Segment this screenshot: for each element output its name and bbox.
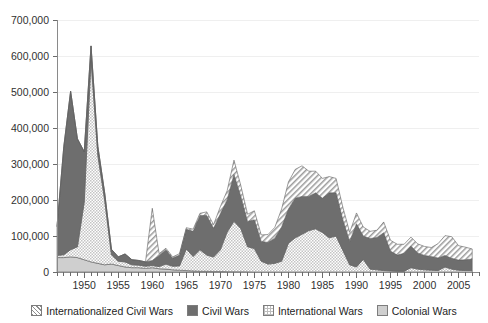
- x-tick-label: 1975: [243, 279, 267, 291]
- stacked-area-chart: 0100,000200,000300,000400,000500,000600,…: [0, 0, 488, 296]
- legend-swatch-icon: [31, 305, 42, 316]
- y-tick-label: 500,000: [11, 86, 49, 98]
- x-tick-label: 1990: [345, 279, 369, 291]
- legend-item[interactable]: Internationalized Civil Wars: [31, 305, 173, 317]
- legend-item[interactable]: Civil Wars: [187, 305, 249, 317]
- y-tick-label: 0: [43, 266, 49, 278]
- x-tick-label: 1965: [175, 279, 199, 291]
- x-tick-label: 2005: [447, 279, 471, 291]
- legend-swatch-icon: [377, 305, 388, 316]
- chart-legend: Internationalized Civil WarsCivil WarsIn…: [0, 298, 488, 323]
- legend-label: Colonial Wars: [392, 305, 457, 317]
- legend-item[interactable]: International Wars: [263, 305, 363, 317]
- area-series-group: [57, 46, 472, 272]
- x-tick-label: 1985: [311, 279, 335, 291]
- y-tick-label: 600,000: [11, 50, 49, 62]
- y-tick-label: 400,000: [11, 122, 49, 134]
- gridlines: [57, 20, 479, 236]
- y-tick-label: 200,000: [11, 194, 49, 206]
- y-tick-label: 100,000: [11, 230, 49, 242]
- y-tick-label: 700,000: [11, 14, 49, 26]
- x-tick-label: 2000: [413, 279, 437, 291]
- y-axis-labels: 0100,000200,000300,000400,000500,000600,…: [11, 14, 49, 278]
- area-series: [57, 46, 472, 262]
- legend-item[interactable]: Colonial Wars: [377, 305, 457, 317]
- x-tick-label: 1970: [209, 279, 233, 291]
- legend-swatch-icon: [263, 305, 274, 316]
- x-axis-labels: 1950195519601965197019751980198519901995…: [73, 279, 471, 291]
- legend-swatch-icon: [187, 305, 198, 316]
- chart-container: 0100,000200,000300,000400,000500,000600,…: [0, 0, 488, 323]
- x-tick-label: 1980: [277, 279, 301, 291]
- x-tick-label: 1955: [107, 279, 131, 291]
- y-tick-label: 300,000: [11, 158, 49, 170]
- legend-label: Civil Wars: [202, 305, 249, 317]
- legend-label: Internationalized Civil Wars: [46, 305, 173, 317]
- x-tick-label: 1950: [73, 279, 97, 291]
- legend-label: International Wars: [278, 305, 363, 317]
- x-tick-label: 1960: [141, 279, 165, 291]
- x-tick-label: 1995: [379, 279, 403, 291]
